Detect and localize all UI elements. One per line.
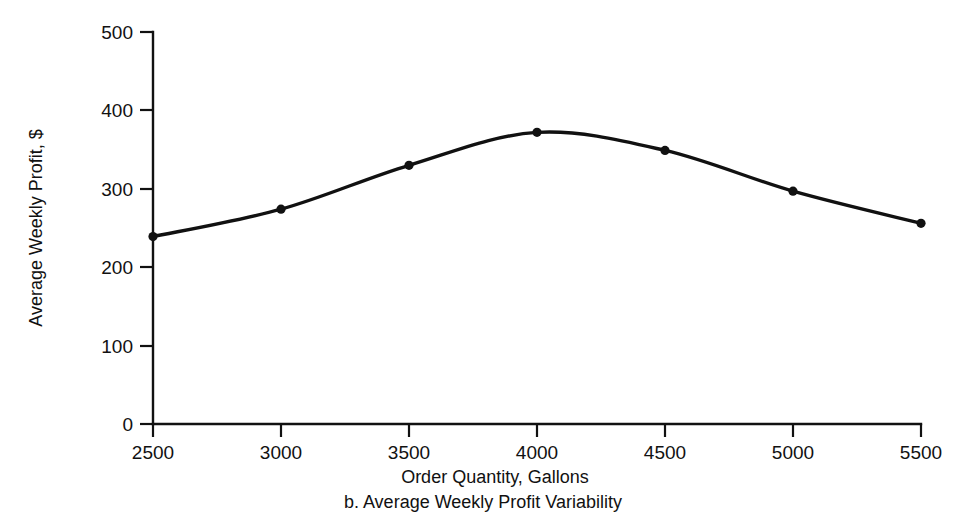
- chart-figure: 500 400 300 200 100 0 2500 3000 3500 400…: [0, 0, 966, 517]
- data-point: [148, 232, 157, 241]
- figure-caption: b. Average Weekly Profit Variability: [344, 492, 622, 512]
- y-tick-label-200: 200: [101, 257, 133, 278]
- x-tick-label-4000: 4000: [516, 442, 558, 463]
- data-point: [276, 205, 285, 214]
- y-tick-label-500: 500: [101, 22, 133, 43]
- y-tick-label-300: 300: [101, 179, 133, 200]
- data-point: [660, 146, 669, 155]
- data-point: [532, 128, 541, 137]
- x-tick-label-3500: 3500: [388, 442, 430, 463]
- y-tick-label-100: 100: [101, 336, 133, 357]
- x-tick-label-5500: 5500: [900, 442, 942, 463]
- data-point: [788, 187, 797, 196]
- line-chart-canvas: 500 400 300 200 100 0 2500 3000 3500 400…: [0, 0, 966, 517]
- data-point: [404, 161, 413, 170]
- data-point: [916, 219, 925, 228]
- x-tick-label-4500: 4500: [644, 442, 686, 463]
- y-axis-title: Average Weekly Profit, $: [26, 129, 46, 326]
- y-tick-label-0: 0: [122, 414, 133, 435]
- chart-background: [0, 0, 966, 517]
- y-tick-label-400: 400: [101, 100, 133, 121]
- x-axis-title: Order Quantity, Gallons: [401, 467, 589, 487]
- x-tick-label-3000: 3000: [260, 442, 302, 463]
- x-tick-label-5000: 5000: [772, 442, 814, 463]
- x-tick-label-2500: 2500: [132, 442, 174, 463]
